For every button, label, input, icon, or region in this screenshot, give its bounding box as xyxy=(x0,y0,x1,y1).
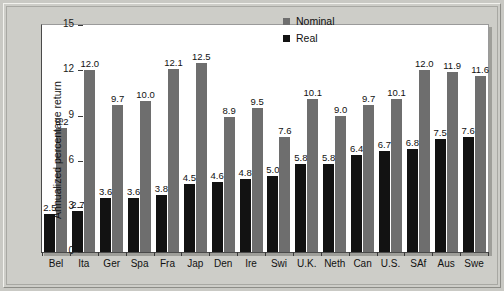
x-axis-tick-mark xyxy=(293,252,294,256)
bar-real: 3.8 xyxy=(156,195,167,253)
legend-swatch-nominal xyxy=(283,18,290,25)
bar-value-label: 4.8 xyxy=(238,168,251,178)
bar-value-label: 11.6 xyxy=(471,65,489,75)
legend-label: Nominal xyxy=(296,15,335,27)
bar-group: 6.49.7 xyxy=(351,25,374,252)
bar-nominal: 12.0 xyxy=(84,70,95,252)
bar-group: 5.89.0 xyxy=(323,25,346,252)
bar-value-label: 3.6 xyxy=(127,187,140,197)
bar-value-label: 6.8 xyxy=(406,138,419,148)
bar-group: 7.611.6 xyxy=(463,25,486,252)
legend-item-nominal: Nominal xyxy=(283,14,335,28)
x-axis-tick-mark xyxy=(349,252,350,256)
bar-nominal: 10.1 xyxy=(391,99,402,252)
bar-group: 6.710.1 xyxy=(379,25,402,252)
legend-item-real: Real xyxy=(283,31,335,45)
bar-group: 6.812.0 xyxy=(407,25,430,252)
bar-value-label: 5.0 xyxy=(266,165,279,175)
x-axis-tick-label: Ire xyxy=(245,258,257,270)
bar-group: 2.712.0 xyxy=(72,25,95,252)
bar-value-label: 10.0 xyxy=(136,90,155,100)
bar-real: 4.5 xyxy=(184,184,195,252)
x-axis-tick-label: SAf xyxy=(410,258,426,270)
bar-real: 3.6 xyxy=(128,198,139,252)
bar-value-label: 3.8 xyxy=(155,184,168,194)
x-axis-tick-label: Aus xyxy=(438,258,455,270)
bar-nominal: 7.6 xyxy=(279,137,290,252)
bar-real: 3.6 xyxy=(100,198,111,252)
y-axis-label: Annualized percentage return xyxy=(51,50,63,250)
bar-group: 7.511.9 xyxy=(435,25,458,252)
bar-value-label: 9.5 xyxy=(250,97,263,107)
x-axis-tick-label: Ita xyxy=(78,258,89,270)
x-axis-tick-label: Fra xyxy=(160,258,175,270)
bar-group: 3.69.7 xyxy=(100,25,123,252)
bar-value-label: 3.6 xyxy=(99,187,112,197)
bar-nominal: 12.5 xyxy=(196,63,207,252)
x-axis-tick-label: Swi xyxy=(271,258,287,270)
bar-nominal: 11.9 xyxy=(447,72,458,252)
legend-label: Real xyxy=(296,32,318,44)
x-axis-tick-mark xyxy=(70,252,71,256)
x-axis-tick-mark xyxy=(377,252,378,256)
x-axis-tick-label: Jap xyxy=(187,258,203,270)
bar-value-label: 12.1 xyxy=(164,58,183,68)
bar-real: 5.8 xyxy=(295,164,306,252)
x-axis-tick-mark xyxy=(98,252,99,256)
bar-nominal: 10.1 xyxy=(307,99,318,252)
bar-real: 4.6 xyxy=(212,182,223,252)
x-axis-tick-mark xyxy=(126,252,127,256)
bar-nominal: 11.6 xyxy=(475,76,486,252)
plot-area: 03691215 BelItaGerSpaFraJapDenIreSwiU.K.… xyxy=(41,24,489,253)
x-axis-tick-mark xyxy=(209,252,210,256)
bar-value-label: 11.9 xyxy=(443,61,461,71)
x-axis-tick-mark xyxy=(404,252,405,256)
bar-value-label: 5.8 xyxy=(322,153,335,163)
bar-value-label: 7.6 xyxy=(461,126,474,136)
bar-group: 3.812.1 xyxy=(156,25,179,252)
bar-value-label: 6.4 xyxy=(350,144,363,154)
bar-value-label: 4.6 xyxy=(211,171,224,181)
bar-nominal: 12.1 xyxy=(168,69,179,252)
bar-real: 6.4 xyxy=(351,155,362,252)
bar-nominal: 10.0 xyxy=(140,101,151,252)
bar-group: 4.89.5 xyxy=(240,25,263,252)
x-axis-tick-mark xyxy=(321,252,322,256)
bar-value-label: 6.7 xyxy=(378,140,391,150)
bar-real: 5.8 xyxy=(323,164,334,252)
x-axis-tick-label: Spa xyxy=(131,258,149,270)
x-axis-tick-label: Neth xyxy=(324,258,345,270)
x-axis-tick-label: Bel xyxy=(49,258,63,270)
bar-group: 5.810.1 xyxy=(295,25,318,252)
bar-value-label: 5.8 xyxy=(294,153,307,163)
x-axis-tick-mark xyxy=(265,252,266,256)
bar-nominal: 9.5 xyxy=(252,108,263,252)
chart-figure: 03691215 BelItaGerSpaFraJapDenIreSwiU.K.… xyxy=(0,0,504,291)
x-axis-tick-mark xyxy=(460,252,461,256)
bar-real: 4.8 xyxy=(240,179,251,252)
x-axis-tick-mark xyxy=(42,252,43,256)
bar-value-label: 12.5 xyxy=(192,52,211,62)
bar-value-label: 4.5 xyxy=(183,173,196,183)
bar-value-label: 9.7 xyxy=(111,94,124,104)
bar-value-label: 12.0 xyxy=(415,59,434,69)
bar-real: 2.7 xyxy=(72,211,83,252)
bar-real: 7.6 xyxy=(463,137,474,252)
bar-real: 7.5 xyxy=(435,139,446,253)
legend-swatch-real xyxy=(283,35,290,42)
bar-value-label: 7.6 xyxy=(278,126,291,136)
bar-value-label: 9.0 xyxy=(334,105,347,115)
x-axis-tick-mark xyxy=(432,252,433,256)
bar-nominal: 9.0 xyxy=(335,116,346,252)
bar-value-label: 8.9 xyxy=(223,106,236,116)
bar-real: 6.8 xyxy=(407,149,418,252)
x-axis-tick-label: U.S. xyxy=(381,258,400,270)
bar-nominal: 9.7 xyxy=(363,105,374,252)
bar-group: 4.512.5 xyxy=(184,25,207,252)
bar-nominal: 12.0 xyxy=(419,70,430,252)
x-axis-tick-mark xyxy=(237,252,238,256)
x-axis-tick-label: Ger xyxy=(103,258,120,270)
bar-nominal: 8.9 xyxy=(224,117,235,252)
x-axis-tick-mark xyxy=(488,252,489,256)
x-axis-tick-mark xyxy=(181,252,182,256)
